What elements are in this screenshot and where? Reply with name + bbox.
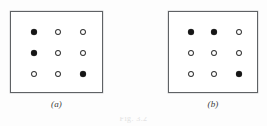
figure-container: (a) (b) Fig. 3.2 bbox=[0, 0, 267, 126]
marker-dot bbox=[236, 71, 242, 77]
marker-dot bbox=[211, 71, 217, 77]
marker-dot bbox=[55, 29, 61, 35]
panel-b bbox=[168, 11, 258, 93]
marker-dot bbox=[211, 50, 217, 56]
panel-b-caption: (b) bbox=[168, 99, 258, 110]
marker-dot bbox=[31, 50, 37, 56]
marker-dot bbox=[211, 29, 217, 35]
panel-a-caption: (a) bbox=[10, 99, 103, 110]
figure-label-clip: Fig. 3.2 bbox=[0, 117, 267, 126]
panel-a bbox=[10, 11, 103, 93]
marker-dot bbox=[80, 50, 86, 56]
dot-grid-a bbox=[11, 12, 102, 92]
dot-grid-b bbox=[169, 12, 257, 92]
marker-dot bbox=[31, 29, 37, 35]
marker-dot bbox=[55, 50, 61, 56]
marker-dot bbox=[188, 29, 194, 35]
marker-dot bbox=[236, 29, 242, 35]
marker-dot bbox=[80, 29, 86, 35]
marker-dot bbox=[80, 71, 86, 77]
marker-dot bbox=[188, 50, 194, 56]
marker-dot bbox=[55, 71, 61, 77]
marker-dot bbox=[31, 71, 37, 77]
marker-dot bbox=[188, 71, 194, 77]
figure-number-label: Fig. 3.2 bbox=[0, 117, 267, 123]
marker-dot bbox=[236, 50, 242, 56]
